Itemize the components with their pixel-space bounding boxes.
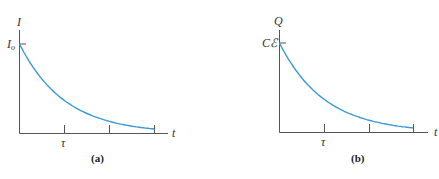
panel-a: I Io t τ (a) [6, 15, 176, 165]
x-axis-label: t [172, 126, 176, 140]
caption-a: (a) [91, 152, 104, 165]
decay-curve [20, 44, 155, 129]
caption-b: (b) [351, 152, 365, 165]
y-axis-label: I [16, 15, 22, 29]
y-axis-label: Q [274, 14, 283, 28]
y0-label: Cℰ [262, 36, 279, 50]
panel-b: Q Cℰ t τ (b) [262, 14, 438, 165]
x-axis-label: t [434, 125, 438, 139]
figure: I Io t τ (a) Q Cℰ t τ (b) [0, 0, 439, 179]
decay-curve [280, 43, 414, 128]
y0-label: Io [6, 37, 15, 52]
tau-label: τ [61, 136, 66, 150]
tau-label: τ [321, 135, 326, 149]
